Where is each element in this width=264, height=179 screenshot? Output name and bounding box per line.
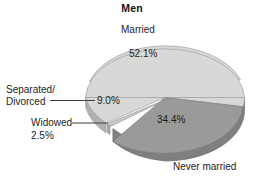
slice-value-married: 52.1% [129,48,157,60]
slice-label-never-married: Never married [173,161,236,173]
pie-chart-men: Men [0,0,264,179]
slice-label-separated-line2: Divorced [6,96,55,108]
slice-value-widowed: 2.5% [31,130,54,142]
slice-label-separated-divorced: Separated/ Divorced [6,84,55,107]
slice-label-married: Married [121,24,155,36]
slice-top-married-body [86,49,245,98]
slice-value-never-married: 34.4% [157,114,185,126]
slice-label-separated-line1: Separated/ [6,84,55,96]
slice-value-separated-divorced: 9.0% [97,95,120,107]
slice-label-widowed: Widowed [31,117,72,129]
